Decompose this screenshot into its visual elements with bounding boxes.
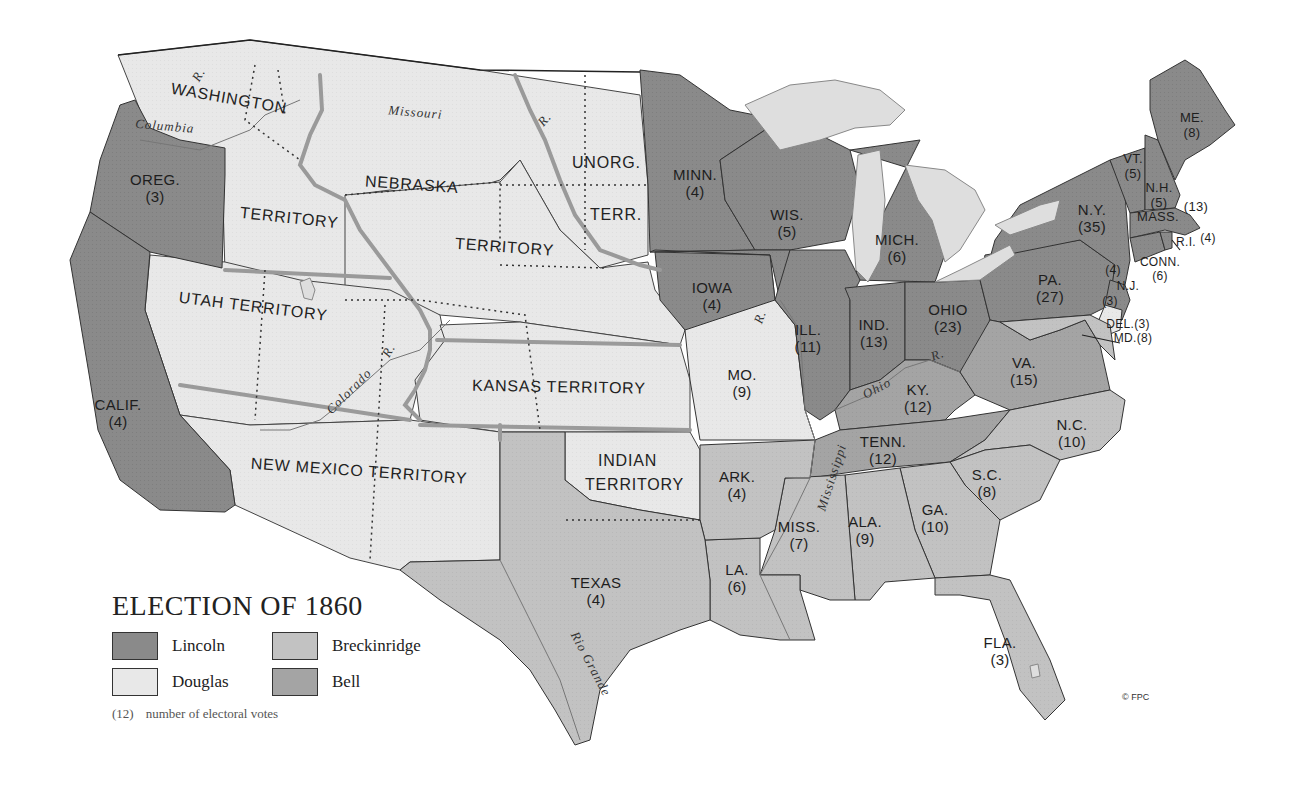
svg-text:ILL.(11): ILL.(11) bbox=[795, 321, 822, 355]
copyright: © FPC bbox=[1122, 692, 1149, 702]
label-missouri: MO. bbox=[727, 366, 756, 383]
label-louisiana: LA. bbox=[725, 561, 748, 578]
label-oregon: OREG. bbox=[130, 171, 180, 188]
legend-label-douglas: Douglas bbox=[172, 672, 229, 692]
label-new-jersey: N.J. bbox=[1117, 279, 1140, 293]
svg-text:KY.(12): KY.(12) bbox=[904, 381, 932, 415]
legend-note: (12)number of electoral votes bbox=[112, 706, 472, 722]
label-texas: TEXAS bbox=[571, 574, 622, 591]
swatch-bell bbox=[272, 668, 318, 696]
label-tennessee: TENN. bbox=[860, 433, 907, 450]
label-iowa: IOWA bbox=[692, 279, 733, 296]
label-arkansas: ARK. bbox=[719, 468, 755, 485]
votes-rhode-island: (4) bbox=[1200, 231, 1216, 245]
legend-item-breckinridge: Breckinridge bbox=[272, 632, 472, 660]
label-california: CALIF. bbox=[95, 396, 142, 413]
swatch-breckinridge bbox=[272, 632, 318, 660]
svg-text:N.Y.(35): N.Y.(35) bbox=[1078, 201, 1106, 235]
svg-text:VT.(5): VT.(5) bbox=[1123, 151, 1143, 181]
label-new-york: N.Y. bbox=[1078, 201, 1106, 218]
legend-item-douglas: Douglas bbox=[112, 668, 272, 696]
label-ohio: OHIO bbox=[928, 301, 968, 318]
svg-text:VA.(15): VA.(15) bbox=[1010, 354, 1038, 388]
label-virginia: VA. bbox=[1012, 354, 1036, 371]
votes-massachusetts: (13) bbox=[1184, 199, 1208, 214]
label-delaware: DEL. bbox=[1106, 317, 1134, 331]
label-vermont: VT. bbox=[1123, 151, 1143, 166]
map-title: ELECTION OF 1860 bbox=[112, 590, 472, 622]
swatch-lincoln bbox=[112, 632, 158, 660]
label-georgia: GA. bbox=[922, 501, 949, 518]
label-rhode-island: R.I. bbox=[1176, 235, 1196, 249]
svg-text:DEL.(3): DEL.(3) bbox=[1106, 317, 1149, 331]
label-wisconsin: WIS. bbox=[770, 206, 804, 223]
label-connecticut: CONN. bbox=[1140, 255, 1180, 269]
label-south-carolina: S.C. bbox=[972, 466, 1002, 483]
legend-label-lincoln: Lincoln bbox=[172, 636, 225, 656]
label-minnesota: MINN. bbox=[673, 166, 717, 183]
svg-text:N.C.(10): N.C.(10) bbox=[1056, 416, 1087, 450]
label-kentucky: KY. bbox=[906, 381, 929, 398]
svg-text:PA.(27): PA.(27) bbox=[1036, 271, 1064, 305]
label-florida: FLA. bbox=[984, 634, 1017, 651]
label-mississippi: MISS. bbox=[778, 518, 820, 535]
svg-text:LA.(6): LA.(6) bbox=[725, 561, 748, 595]
label-maine: ME. bbox=[1180, 110, 1204, 125]
label-alabama: ALA. bbox=[848, 513, 882, 530]
label-illinois: ILL. bbox=[795, 321, 821, 338]
label-kansas-territory: KANSAS TERRITORY bbox=[472, 377, 646, 397]
legend-label-bell: Bell bbox=[332, 672, 360, 692]
legend-item-lincoln: Lincoln bbox=[112, 632, 272, 660]
svg-text:OHIO(23): OHIO(23) bbox=[928, 301, 968, 335]
legend-grid: Lincoln Breckinridge Douglas Bell bbox=[112, 632, 472, 696]
label-unorg: UNORG. bbox=[572, 154, 641, 171]
lake-okeechobee bbox=[1030, 664, 1040, 678]
legend-note-example: (12) bbox=[112, 706, 134, 721]
label-massachusetts: MASS. bbox=[1137, 209, 1179, 224]
legend-note-text: number of electoral votes bbox=[146, 706, 278, 721]
legend-item-bell: Bell bbox=[272, 668, 472, 696]
svg-text:ME.(8): ME.(8) bbox=[1180, 110, 1204, 140]
label-indian: INDIAN bbox=[598, 452, 657, 469]
svg-text:GA.(10): GA.(10) bbox=[921, 501, 949, 535]
label-north-carolina: N.C. bbox=[1056, 416, 1087, 433]
label-unorg-terr: TERR. bbox=[590, 206, 642, 223]
label-pennsylvania: PA. bbox=[1038, 271, 1062, 288]
swatch-douglas bbox=[112, 668, 158, 696]
votes-new-jersey-douglas: (3) bbox=[1102, 294, 1118, 308]
legend-label-breckinridge: Breckinridge bbox=[332, 636, 421, 656]
label-indiana: IND. bbox=[858, 316, 889, 333]
votes-new-jersey-lincoln: (4) bbox=[1105, 263, 1121, 277]
svg-text:IND.(13): IND.(13) bbox=[858, 316, 889, 350]
label-indian-territory: TERRITORY bbox=[585, 476, 684, 493]
label-michigan: MICH. bbox=[875, 231, 919, 248]
label-new-hampshire: N.H. bbox=[1145, 180, 1172, 195]
svg-text:CONN.(6): CONN.(6) bbox=[1140, 255, 1180, 283]
legend: ELECTION OF 1860 Lincoln Breckinridge Do… bbox=[112, 590, 472, 722]
